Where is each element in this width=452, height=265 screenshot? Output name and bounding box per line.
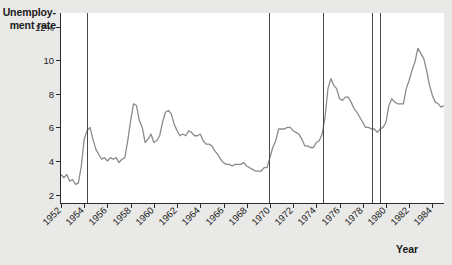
- x-tick-label: 1952: [40, 205, 63, 228]
- x-tick-label: 1970: [249, 205, 272, 228]
- x-tick-labels: 1952195419561958196019621964196619681970…: [0, 0, 452, 265]
- x-tick-label: 1972: [272, 205, 295, 228]
- x-tick-label: 1962: [156, 205, 179, 228]
- x-tick-label: 1974: [295, 205, 318, 228]
- x-tick-label: 1956: [87, 205, 110, 228]
- x-tick-label: 1976: [319, 205, 342, 228]
- x-tick-label: 1958: [110, 205, 133, 228]
- x-tick-label: 1968: [226, 205, 249, 228]
- x-tick-label: 1984: [412, 205, 435, 228]
- x-tick-label: 1966: [203, 205, 226, 228]
- x-tick-label: 1954: [63, 205, 86, 228]
- x-tick-label: 1960: [133, 205, 156, 228]
- x-tick-label: 1978: [342, 205, 365, 228]
- x-tick-label: 1980: [365, 205, 388, 228]
- x-tick-label: 1982: [388, 205, 411, 228]
- x-tick-label: 1964: [179, 205, 202, 228]
- unemployment-rate-chart: Unemploy- ment rate Year 12%108642 19521…: [0, 0, 452, 265]
